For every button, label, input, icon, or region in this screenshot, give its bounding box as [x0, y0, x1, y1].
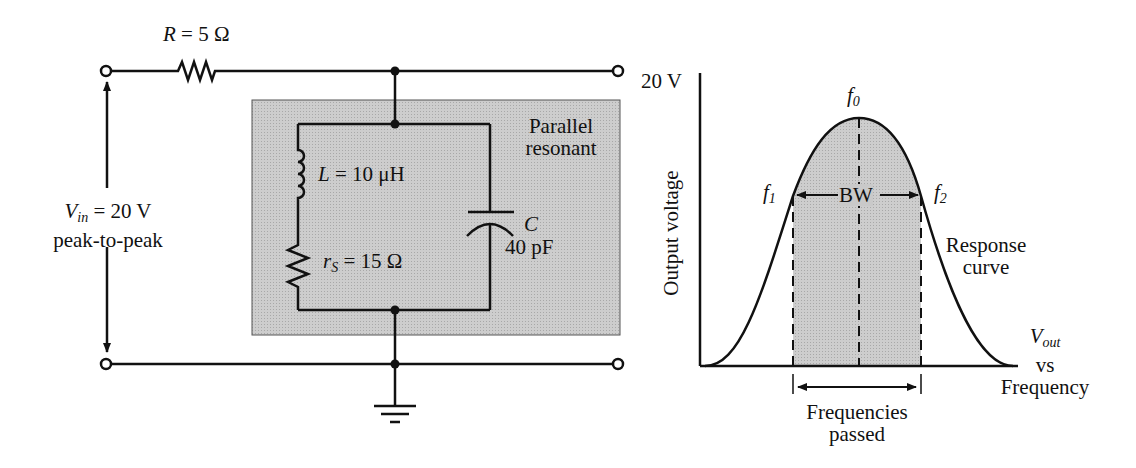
inductor-label: L = 10 μH: [318, 163, 405, 185]
coil-resistance-label: rS = 15 Ω: [323, 250, 402, 279]
output-terminal-top: [613, 66, 623, 76]
f1-label: f1: [763, 181, 776, 210]
series-resistor-label: R = 5 Ω: [163, 23, 230, 45]
bw-label: BW: [839, 184, 873, 206]
tank-label: Parallel resonant: [512, 115, 610, 159]
f0-label: f0: [847, 84, 860, 113]
y-axis-label: Output voltage: [660, 158, 682, 308]
input-voltage-label: Vin = 20 V peak-to-peak: [30, 200, 186, 251]
capacitor-symbol-label: C: [524, 213, 538, 235]
ground-symbol: [374, 406, 416, 422]
x-axis-label: Vout vs Frequency: [990, 325, 1100, 398]
output-terminal-bottom: [613, 359, 623, 369]
response-curve-label: Response curve: [936, 234, 1036, 278]
frequencies-passed-label: Frequencies passed: [790, 401, 924, 445]
capacitor-value-label: 40 pF: [505, 236, 553, 258]
top-wire: [111, 62, 613, 80]
f2-label: f2: [934, 181, 947, 210]
input-terminal-top: [101, 66, 111, 76]
y-max-label: 20 V: [641, 70, 682, 92]
input-terminal-bottom: [101, 359, 111, 369]
